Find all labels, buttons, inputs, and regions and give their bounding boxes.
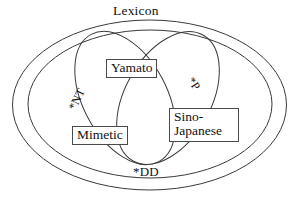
region-label-mimetic: Mimetic [72, 126, 128, 145]
sino-japanese-line-2: Japanese [174, 123, 222, 138]
constraint-label-nt: *NT [66, 86, 87, 112]
lexicon-title-label: Lexicon [113, 4, 159, 18]
region-label-sino-japanese: Sino- Japanese [169, 108, 239, 142]
sino-japanese-line-1: Sino- [174, 109, 203, 124]
label-layer: Lexicon Yamato Mimetic Sino- Japanese *N… [0, 0, 298, 201]
constraint-label-dd: *DD [133, 165, 159, 179]
region-label-yamato: Yamato [106, 59, 157, 78]
venn-diagram: Lexicon Yamato Mimetic Sino- Japanese *N… [0, 0, 298, 201]
constraint-label-p: *P [185, 75, 203, 93]
